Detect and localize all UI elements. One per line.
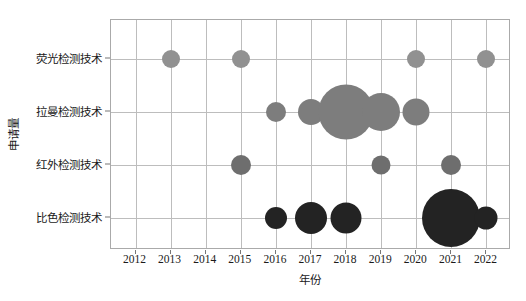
x-axis-tick [275, 250, 276, 254]
bubble-point [362, 93, 400, 131]
x-axis-labels: 2012201320142015201620172018201920202021… [110, 250, 510, 272]
x-axis-tick-label: 2018 [334, 253, 357, 265]
bubble-point [372, 155, 391, 174]
x-axis-tick [380, 250, 381, 254]
x-axis-tick [345, 250, 346, 254]
bubble-point [231, 155, 251, 175]
x-axis-tick-label: 2020 [404, 253, 427, 265]
bubble-point [477, 50, 495, 68]
bubble-point [265, 207, 287, 229]
x-axis-tick [240, 250, 241, 254]
x-axis-tick-label: 2017 [299, 253, 322, 265]
y-axis-labels: 荧光检测技术拉曼检测技术红外检测技术比色检测技术 [0, 19, 110, 249]
x-axis-tick [170, 250, 171, 254]
plot-area [110, 19, 510, 249]
x-axis-tick [415, 250, 416, 254]
x-axis-tick-label: 2014 [193, 253, 216, 265]
x-axis-tick-label: 2022 [474, 253, 497, 265]
x-axis-tick [205, 250, 206, 254]
x-axis-tick [450, 250, 451, 254]
bubble-point [441, 155, 461, 175]
vertical-gridline [136, 20, 137, 248]
y-axis-tick-label: 拉曼检测技术 [36, 103, 102, 119]
x-axis-tick [310, 250, 311, 254]
vertical-gridline [206, 20, 207, 248]
bubble-point [331, 202, 362, 233]
y-axis-tick-label: 荧光检测技术 [36, 50, 102, 66]
x-axis-title-text: 年份 [299, 274, 321, 286]
x-axis-title: 年份 [110, 271, 510, 287]
bubble-chart: 申请量 荧光检测技术拉曼检测技术红外检测技术比色检测技术 20122013201… [0, 0, 526, 301]
x-axis-tick-label: 2012 [123, 253, 146, 265]
bubble-point [422, 189, 480, 247]
x-axis-tick [135, 250, 136, 254]
bubble-point [295, 202, 327, 234]
bubble-point [407, 50, 425, 68]
x-axis-tick-label: 2015 [228, 253, 251, 265]
y-axis-tick-label: 比色检测技术 [36, 209, 102, 225]
bubble-point [403, 99, 430, 126]
bubble-point [475, 206, 498, 229]
x-axis-tick [485, 250, 486, 254]
x-axis-tick-label: 2021 [439, 253, 462, 265]
y-axis-tick-label: 红外检测技术 [36, 156, 102, 172]
x-axis-tick-label: 2013 [158, 253, 181, 265]
x-axis-tick-label: 2019 [369, 253, 392, 265]
bubble-point [266, 102, 286, 122]
bubble-point [162, 50, 180, 68]
bubble-point [232, 50, 250, 68]
x-axis-tick-label: 2016 [263, 253, 286, 265]
vertical-gridline [381, 20, 382, 248]
